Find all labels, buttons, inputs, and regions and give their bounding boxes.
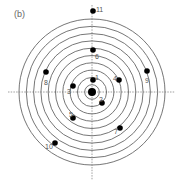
point-10 — [52, 140, 58, 146]
center-point — [88, 88, 96, 96]
point-label-9: 9 — [145, 77, 149, 84]
point-7 — [117, 125, 123, 131]
point-label-10: 10 — [45, 143, 53, 150]
point-label-4: 4 — [113, 75, 117, 82]
point-label-6: 6 — [95, 53, 99, 60]
point-label-3: 3 — [67, 88, 71, 95]
point-label-11: 11 — [96, 6, 103, 13]
point-4 — [116, 77, 122, 83]
point-11 — [90, 8, 96, 14]
point-8 — [43, 69, 49, 75]
point-label-1: 1 — [95, 74, 99, 81]
point-9 — [144, 68, 150, 74]
point-label-8: 8 — [44, 79, 48, 86]
point-6 — [90, 47, 96, 53]
point-label-5: 5 — [69, 111, 73, 118]
point-3 — [70, 83, 76, 89]
point-label-7: 7 — [114, 128, 118, 135]
target-diagram: 1234567891011 — [0, 0, 183, 183]
point-label-2: 2 — [99, 96, 103, 103]
